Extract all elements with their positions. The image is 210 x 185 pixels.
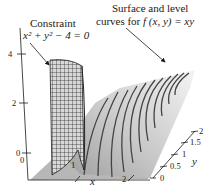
y-tick-0.5: 0.5 xyxy=(170,161,181,171)
y-tick-1.5: 1.5 xyxy=(190,137,201,147)
y-tick-1: 1 xyxy=(182,149,186,159)
y-axis-label: y xyxy=(191,155,197,167)
y-tick-2: 2 xyxy=(199,126,203,136)
constraint-arrow xyxy=(30,43,49,65)
y-tick-0: 0 xyxy=(160,173,164,183)
plot-canvas: 4 2 0 0 1 2 x 0 0.5 1 1.5 2 y Constraint… xyxy=(0,0,210,185)
x-tick-2: 2 xyxy=(122,174,126,184)
surface-annotation-line2: curves for f (x, y) = xy xyxy=(96,15,194,28)
z-tick-4: 4 xyxy=(8,49,13,59)
surface-arrow xyxy=(126,28,165,62)
surface-annotation-line1: Surface and level xyxy=(112,2,188,14)
constraint-title: Constraint xyxy=(30,17,76,29)
x-tick-0: 0 xyxy=(20,155,24,165)
constraint-equation: x² + y² − 4 = 0 xyxy=(22,29,90,41)
x-axis-label: x xyxy=(89,175,95,185)
x-tick-1: 1 xyxy=(71,160,75,170)
z-tick-2: 2 xyxy=(12,98,16,108)
